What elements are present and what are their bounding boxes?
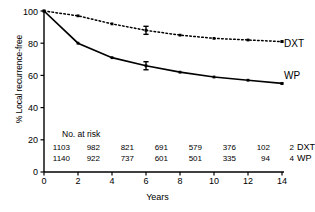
series-line-dxt — [44, 11, 282, 42]
data-point-dxt-2 — [77, 14, 80, 17]
data-point-dxt-10 — [213, 37, 216, 40]
series-line-wp — [44, 11, 282, 83]
data-point-dxt-12 — [247, 39, 250, 42]
chart-figure: % Local recurrence-free 0 20 40 60 80 10… — [0, 0, 315, 212]
data-point-wp-10 — [213, 76, 216, 79]
data-point-dxt-4 — [111, 22, 114, 25]
data-point-wp-2 — [77, 42, 80, 45]
data-point-wp-8 — [179, 71, 182, 74]
plot-area — [0, 0, 315, 212]
data-point-dxt-8 — [179, 34, 182, 37]
series-end-marker-dxt — [281, 40, 284, 43]
data-point-wp-4 — [111, 56, 114, 59]
data-point-wp-12 — [247, 79, 250, 82]
data-point-wp-0 — [43, 10, 46, 13]
series-end-marker-wp — [281, 82, 284, 85]
